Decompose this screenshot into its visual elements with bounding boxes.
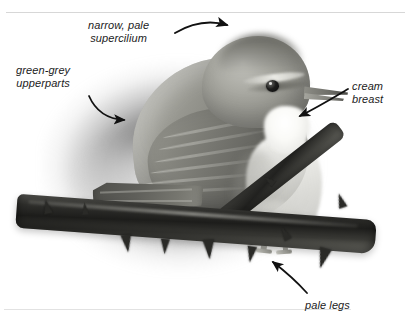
bird-crown [218,34,302,74]
thorn [203,239,216,259]
top-rule [6,12,405,13]
bird-photograph [18,22,393,298]
thorn [121,234,134,253]
bird-eye-glint [269,82,272,85]
annotation-label-legs: pale legs [305,299,350,312]
annotation-label-upperparts: green-grey upperparts [16,64,70,90]
thorn [81,202,89,214]
thorn [160,239,170,255]
annotation-label-supercilium: narrow, pale supercilium [88,19,149,45]
annotation-label-breast: cream breast [352,80,383,106]
bottom-rule [4,309,351,310]
page-canvas: narrow, pale supercilium green-grey uppe… [0,0,411,321]
cropped-header-text [220,0,400,8]
bird-eye [266,80,279,92]
